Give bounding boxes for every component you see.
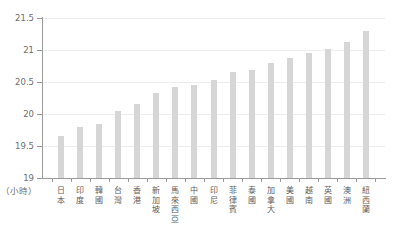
x-axis-category-label: 香港 — [130, 186, 144, 205]
bar — [249, 70, 255, 178]
x-axis-category-label: 紐西蘭 — [359, 186, 373, 215]
bar — [306, 53, 312, 178]
x-axis-category-label: 印尼 — [207, 186, 221, 205]
bar — [58, 136, 64, 178]
x-axis-tick — [299, 178, 300, 182]
y-axis-tick — [37, 82, 42, 83]
x-axis-category-label: 韓國 — [92, 186, 106, 205]
x-axis-category-label: 印度 — [73, 186, 87, 205]
x-axis-tick — [280, 178, 281, 182]
bar — [363, 31, 369, 178]
x-axis-category-label: 英國 — [321, 186, 335, 205]
bar — [115, 111, 121, 178]
x-axis-tick — [109, 178, 110, 182]
y-axis-tick-label: 19 — [0, 174, 34, 183]
y-axis-tick — [37, 114, 42, 115]
bar — [172, 87, 178, 178]
gridline — [42, 50, 385, 51]
x-axis-category-label: 美國 — [283, 186, 297, 205]
gridline — [42, 18, 385, 19]
bar — [268, 63, 274, 178]
x-axis-category-label: 加拿大 — [264, 186, 278, 215]
plot-area — [42, 18, 385, 178]
y-axis-tick — [37, 178, 42, 179]
y-axis-unit-label: （小時） — [1, 186, 37, 196]
y-axis-tick-label: 19.5 — [0, 142, 34, 151]
bar-chart: 1919.52020.52121.5 日本印度韓國台灣香港新加坡馬來西亞中國印尼… — [0, 0, 393, 238]
y-axis-tick-label: 20.5 — [0, 78, 34, 87]
x-axis-tick — [166, 178, 167, 182]
y-axis-line — [42, 17, 43, 179]
bar — [134, 104, 140, 178]
x-axis-category-label: 泰國 — [245, 186, 259, 205]
y-axis-tick-label: 21 — [0, 46, 34, 55]
x-axis-category-label: 馬來西亞 — [168, 186, 182, 224]
x-axis-tick — [204, 178, 205, 182]
bar — [325, 49, 331, 178]
x-axis-category-label: 日本 — [54, 186, 68, 205]
bar — [211, 80, 217, 178]
bar — [230, 72, 236, 178]
bar — [153, 93, 159, 178]
x-axis-tick — [375, 178, 376, 182]
x-axis-category-label: 新加坡 — [149, 186, 163, 215]
bar — [191, 85, 197, 178]
x-axis-tick — [52, 178, 53, 182]
x-axis-tick — [128, 178, 129, 182]
x-axis-tick — [185, 178, 186, 182]
y-axis-tick-label: 20 — [0, 110, 34, 119]
x-axis-category-label: 澳洲 — [340, 186, 354, 205]
x-axis-tick — [261, 178, 262, 182]
bar — [77, 127, 83, 178]
y-axis-tick — [37, 146, 42, 147]
x-axis-tick — [71, 178, 72, 182]
x-axis-category-label: 菲律賓 — [226, 186, 240, 215]
x-axis-tick — [356, 178, 357, 182]
bar — [96, 124, 102, 178]
x-axis-category-label: 台灣 — [111, 186, 125, 205]
x-axis-tick — [242, 178, 243, 182]
y-axis-tick — [37, 50, 42, 51]
x-axis-tick — [90, 178, 91, 182]
x-axis-tick — [223, 178, 224, 182]
y-axis-tick-label: 21.5 — [0, 14, 34, 23]
bar — [287, 58, 293, 178]
x-axis-category-label: 中國 — [187, 186, 201, 205]
bar — [344, 42, 350, 178]
x-axis-line — [42, 178, 386, 179]
x-axis-tick — [318, 178, 319, 182]
x-axis-tick — [147, 178, 148, 182]
x-axis-category-label: 越南 — [302, 186, 316, 205]
y-axis-tick — [37, 18, 42, 19]
x-axis-tick — [337, 178, 338, 182]
